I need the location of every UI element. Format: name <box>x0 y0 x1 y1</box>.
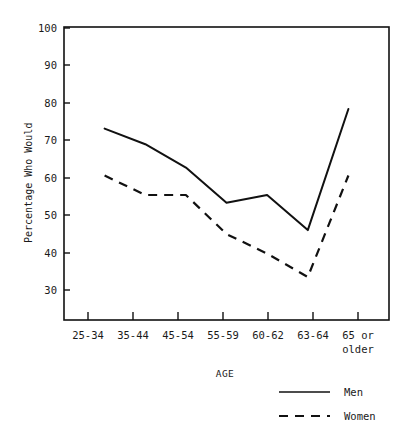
plot-area-border <box>64 27 389 320</box>
y-tick-label-30: 30 <box>31 285 57 296</box>
x-tick-label-65-older-line2: older <box>328 344 388 355</box>
y-tick-label-40: 40 <box>31 248 57 259</box>
legend-label-men: Men <box>344 387 363 398</box>
x-axis-title: AGE <box>185 369 265 379</box>
y-tick-label-90: 90 <box>31 60 57 71</box>
y-tick-label-80: 80 <box>31 98 57 109</box>
plot-frame <box>64 27 389 320</box>
y-tick-label-50: 50 <box>31 210 57 221</box>
y-tick-label-100: 100 <box>31 23 57 34</box>
legend-label-women: Women <box>344 411 376 422</box>
chart-canvas <box>0 0 409 431</box>
y-tick-label-60: 60 <box>31 173 57 184</box>
x-tick-label-65-older-line1: 65 or <box>342 329 374 341</box>
y-tick-label-70: 70 <box>31 135 57 146</box>
legend-swatches <box>279 392 330 416</box>
x-tick-label-65-older: 65 orolder <box>328 330 388 354</box>
line-chart-figure: Percentage Who Would 100 90 80 70 60 50 … <box>0 0 409 431</box>
